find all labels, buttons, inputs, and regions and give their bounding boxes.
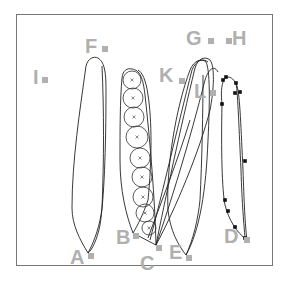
shape-b-circle-stack: [120, 69, 156, 245]
label-marker-e: [186, 255, 192, 261]
label-marker-d: [244, 237, 250, 243]
label-c: C: [140, 252, 154, 274]
data-point-marker: [220, 102, 224, 106]
data-point-marker: [238, 90, 242, 94]
label-e: E: [169, 241, 182, 263]
label-f: F: [85, 35, 97, 57]
label-marker-a: [88, 253, 94, 259]
label-marker-i: [42, 77, 48, 83]
data-point-marker: [243, 159, 247, 163]
label-marker-f: [102, 46, 108, 52]
label-marker-c: [156, 245, 162, 251]
label-a: A: [70, 246, 84, 268]
label-h: H: [232, 27, 246, 49]
label-marker-k: [179, 78, 185, 84]
shape-d-curve: [220, 75, 249, 242]
data-point-marker: [234, 81, 238, 85]
diagram-canvas: ABCDEFGHIKL: [0, 0, 285, 291]
data-point-marker: [224, 75, 228, 79]
label-marker-g: [208, 38, 214, 44]
label-marker-l: [210, 90, 216, 96]
data-point-marker: [223, 198, 227, 202]
label-k: K: [159, 64, 174, 86]
label-i: I: [33, 66, 39, 88]
data-point-marker: [233, 91, 237, 95]
label-g: G: [186, 27, 202, 49]
label-l: L: [194, 80, 206, 102]
shape-af-leaf: [72, 57, 106, 253]
label-marker-h: [226, 38, 232, 44]
data-point-marker: [226, 209, 230, 213]
label-b: B: [116, 226, 130, 248]
label-d: D: [224, 225, 238, 247]
label-marker-b: [133, 233, 139, 239]
